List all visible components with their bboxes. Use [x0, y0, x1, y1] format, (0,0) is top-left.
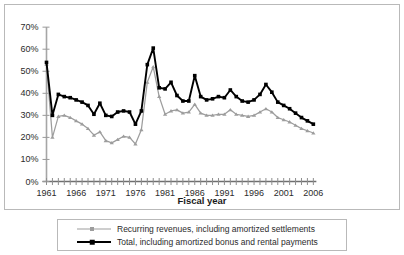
series-marker — [140, 109, 144, 113]
series-marker — [175, 94, 179, 98]
series-marker — [199, 95, 203, 99]
series-marker — [234, 95, 238, 99]
series-marker — [134, 122, 138, 126]
series-marker — [193, 74, 197, 78]
series-marker — [217, 95, 221, 99]
x-axis-title: Fiscal year — [0, 195, 404, 206]
y-axis-tick-label: 60% — [5, 44, 39, 54]
series-marker — [68, 96, 72, 100]
y-axis-tick-label: 20% — [5, 132, 39, 142]
legend-marker-square-icon — [90, 240, 95, 245]
series-marker — [246, 100, 250, 104]
series-marker — [223, 96, 227, 100]
series-marker — [157, 86, 161, 90]
chart-svg — [5, 5, 401, 211]
series-marker — [205, 98, 209, 102]
legend-label-recurring-revenues: Recurring revenues, including amortized … — [117, 224, 315, 234]
series-marker — [86, 104, 90, 108]
chart-legend: Recurring revenues, including amortized … — [57, 219, 347, 251]
series-marker — [122, 109, 126, 113]
series-marker — [92, 112, 96, 116]
y-axis-tick-label: 30% — [5, 110, 39, 120]
chart-figure: 0%10%20%30%40%50%60%70%19611966197119761… — [0, 0, 404, 255]
series-marker — [62, 95, 66, 99]
series-marker — [288, 107, 292, 111]
series-marker — [193, 102, 197, 105]
series-marker — [163, 87, 167, 91]
series-marker — [252, 98, 256, 102]
series-marker — [45, 61, 49, 65]
series-marker — [116, 110, 120, 114]
legend-item-recurring-revenues: Recurring revenues, including amortized … — [77, 224, 315, 234]
legend-swatch-total — [77, 237, 111, 247]
series-marker — [211, 97, 215, 101]
legend-swatch-recurring-revenues — [77, 224, 111, 234]
plot-frame: 0%10%20%30%40%50%60%70%19611966197119761… — [4, 4, 400, 210]
series-marker — [264, 107, 268, 110]
series-marker — [74, 98, 78, 102]
series-marker — [312, 122, 316, 126]
series-marker — [294, 111, 298, 115]
y-axis-tick-label: 10% — [5, 154, 39, 164]
series-marker — [258, 93, 262, 97]
series-marker — [80, 100, 84, 104]
plot-area: 0%10%20%30%40%50%60%70%19611966197119761… — [5, 5, 401, 211]
series-marker — [57, 93, 61, 97]
series-marker — [181, 99, 185, 103]
y-axis-tick-label: 50% — [5, 66, 39, 76]
series-marker — [157, 95, 161, 98]
series-marker — [146, 63, 150, 67]
series-marker — [139, 128, 143, 131]
series-marker — [128, 110, 132, 114]
series-marker — [51, 114, 55, 118]
series-marker — [151, 46, 155, 50]
y-axis-tick-label: 70% — [5, 22, 39, 32]
y-axis-tick-label: 0% — [5, 177, 39, 187]
series-marker — [151, 65, 155, 68]
series-marker — [270, 90, 274, 94]
series-marker — [276, 100, 280, 104]
series-marker — [110, 115, 114, 119]
series-marker — [306, 119, 310, 123]
series-marker — [228, 108, 232, 111]
series-marker — [240, 99, 244, 103]
legend-label-total: Total, including amortized bonus and ren… — [117, 237, 318, 247]
series-marker — [264, 83, 268, 87]
series-marker — [98, 130, 102, 133]
series-marker — [169, 80, 173, 84]
legend-line-gray-icon — [77, 229, 111, 230]
legend-item-total: Total, including amortized bonus and ren… — [77, 237, 318, 247]
legend-marker-triangle-icon — [90, 227, 94, 231]
series-marker — [187, 99, 191, 103]
y-axis-tick-label: 40% — [5, 88, 39, 98]
series-marker — [300, 116, 304, 120]
series-marker — [229, 88, 233, 92]
series-marker — [104, 114, 108, 118]
series-marker — [282, 104, 286, 108]
series-marker — [50, 136, 54, 139]
series-marker — [98, 101, 102, 105]
